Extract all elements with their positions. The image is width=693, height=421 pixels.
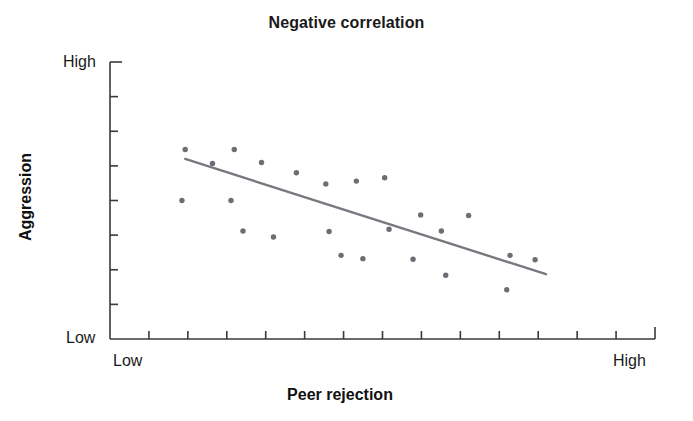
x-axis-max-label: High xyxy=(613,352,646,370)
scatter-point xyxy=(183,147,188,152)
scatter-point xyxy=(240,228,245,233)
scatter-point xyxy=(338,253,343,258)
scatter-point xyxy=(382,175,387,180)
scatter-point xyxy=(418,212,423,217)
trend-line xyxy=(185,159,546,274)
scatter-point xyxy=(504,287,509,292)
x-axis-title: Peer rejection xyxy=(110,386,570,404)
y-axis-max-label: High xyxy=(63,53,96,71)
scatter-point xyxy=(323,181,328,186)
scatter-point xyxy=(259,160,264,165)
axes-group xyxy=(110,62,655,339)
scatter-point xyxy=(360,256,365,261)
scatter-point xyxy=(326,229,331,234)
scatter-point xyxy=(179,198,184,203)
scatter-point xyxy=(386,227,391,232)
scatter-point xyxy=(410,257,415,262)
scatter-point xyxy=(271,234,276,239)
scatter-point xyxy=(466,213,471,218)
axis-ticks-group xyxy=(110,62,655,339)
scatter-point xyxy=(232,147,237,152)
scatter-point xyxy=(507,253,512,258)
plot-svg xyxy=(0,0,693,421)
y-axis-min-label: Low xyxy=(66,329,95,347)
scatter-point xyxy=(228,198,233,203)
x-axis-min-label: Low xyxy=(113,352,142,370)
scatter-point xyxy=(443,273,448,278)
trend-line-segment xyxy=(185,159,546,274)
scatter-points-group xyxy=(179,147,538,293)
scatter-chart-figure: Negative correlation Aggression Peer rej… xyxy=(0,0,693,421)
scatter-point xyxy=(532,257,537,262)
y-axis-title: Aggression xyxy=(17,127,35,267)
scatter-point xyxy=(439,228,444,233)
scatter-point xyxy=(210,161,215,166)
scatter-point xyxy=(354,178,359,183)
plot-area xyxy=(0,0,693,421)
scatter-point xyxy=(294,170,299,175)
